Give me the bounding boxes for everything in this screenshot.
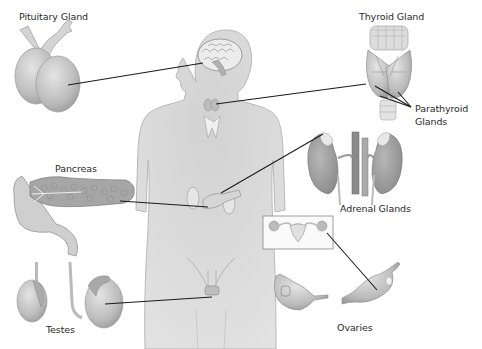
ovaries-leader-line	[327, 233, 377, 290]
endocrine-diagram: Pituitary Gland Thyroid Gland Parathyroi…	[0, 0, 482, 349]
ovaries-label: Ovaries	[337, 322, 373, 334]
adrenal-glands-icon	[308, 132, 403, 205]
thyroid-gland-label: Thyroid Gland	[359, 11, 424, 23]
testes-label: Testes	[46, 324, 75, 336]
testes-icon	[17, 262, 123, 328]
pituitary-gland-icon	[15, 20, 80, 112]
pancreas-icon	[14, 176, 135, 256]
ovaries-icon	[274, 262, 400, 310]
thyroid-gland-icon	[366, 26, 411, 120]
pancreas-label: Pancreas	[55, 163, 97, 175]
uterus-inset-icon	[263, 216, 333, 249]
pituitary-gland-label: Pituitary Gland	[19, 11, 88, 23]
body-silhouette	[136, 30, 285, 349]
adrenal-glands-label: Adrenal Glands	[340, 203, 411, 215]
parathyroid-label-line2: Glands	[415, 116, 447, 128]
parathyroid-label-line1: Parathyroid	[415, 103, 468, 115]
